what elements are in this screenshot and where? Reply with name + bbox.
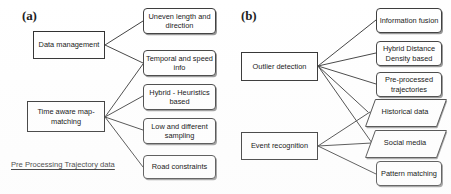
edge-outlier-detection-to-pre-processed-trajectories xyxy=(318,66,376,84)
edge-time-aware-map-matching-to-low-and-different-sampling xyxy=(105,117,143,130)
node-hybrid-distance-density-based-label: Hybrid Distance Density based xyxy=(379,44,439,63)
node-road-constraints[interactable]: Road constraints xyxy=(143,155,216,179)
edge-event-recognition-to-social-media xyxy=(318,143,372,146)
node-low-and-different-sampling-label: Low and different sampling xyxy=(146,122,213,141)
edge-data-management-to-uneven-length-and-direction xyxy=(105,21,143,45)
node-road-constraints-label: Road constraints xyxy=(146,162,213,171)
edge-outlier-detection-to-social-media xyxy=(318,66,368,112)
node-temporal-and-speed-info-label: Temporal and speed info xyxy=(146,54,213,73)
edge-event-recognition-to-historical-data xyxy=(318,112,370,146)
node-social-media[interactable]: Social media xyxy=(370,130,440,156)
edge-time-aware-map-matching-to-temporal-and-speed-info xyxy=(105,64,143,117)
panel-label-a: (a) xyxy=(22,8,37,24)
edge-outlier-detection-to-historical-data xyxy=(318,66,372,143)
node-pre-processed-trajectories-label: Pre-processed trajectories xyxy=(379,75,439,94)
node-low-and-different-sampling[interactable]: Low and different sampling xyxy=(143,118,216,144)
node-temporal-and-speed-info[interactable]: Temporal and speed info xyxy=(143,50,216,76)
edge-data-management-to-temporal-and-speed-info xyxy=(105,45,143,63)
node-historical-data[interactable]: Historical data xyxy=(370,99,440,125)
edge-outlier-detection-to-hybrid-distance-density-based xyxy=(318,53,376,66)
node-historical-data-label: Historical data xyxy=(370,107,440,116)
node-pattern-matching[interactable]: Pattern matching xyxy=(376,161,442,186)
panel-label-b: (b) xyxy=(241,8,256,24)
node-information-fusion[interactable]: Information fusion xyxy=(376,8,442,33)
node-hybrid-heuristics-based[interactable]: Hybrid - Heuristics based xyxy=(143,84,216,110)
node-hybrid-heuristics-based-label: Hybrid - Heuristics based xyxy=(146,88,213,107)
node-outlier-detection-label: Outlier detection xyxy=(244,62,315,71)
node-social-media-label: Social media xyxy=(370,138,440,147)
node-outlier-detection[interactable]: Outlier detection xyxy=(241,52,318,81)
node-event-recognition[interactable]: Event recognition xyxy=(241,132,318,160)
figure-canvas: (a) Data management Time aware map-match… xyxy=(0,0,451,194)
node-hybrid-distance-density-based[interactable]: Hybrid Distance Density based xyxy=(376,41,442,66)
node-uneven-length-and-direction[interactable]: Uneven length and direction xyxy=(143,8,216,34)
edge-outlier-detection-to-information-fusion xyxy=(318,20,376,66)
node-data-management-label: Data management xyxy=(36,40,102,49)
node-event-recognition-label: Event recognition xyxy=(244,141,315,150)
node-uneven-length-and-direction-label: Uneven length and direction xyxy=(146,12,213,31)
panel-a-caption: Pre Processing Trajectory data xyxy=(11,160,115,169)
node-data-management[interactable]: Data management xyxy=(33,31,105,59)
node-pattern-matching-label: Pattern matching xyxy=(379,169,439,178)
node-time-aware-map-matching[interactable]: Time aware map-matching xyxy=(27,101,105,132)
edge-time-aware-map-matching-to-hybrid-heuristics-based xyxy=(105,96,143,117)
node-time-aware-map-matching-label: Time aware map-matching xyxy=(30,107,102,126)
node-pre-processed-trajectories[interactable]: Pre-processed trajectories xyxy=(376,72,442,97)
node-information-fusion-label: Information fusion xyxy=(379,16,439,25)
